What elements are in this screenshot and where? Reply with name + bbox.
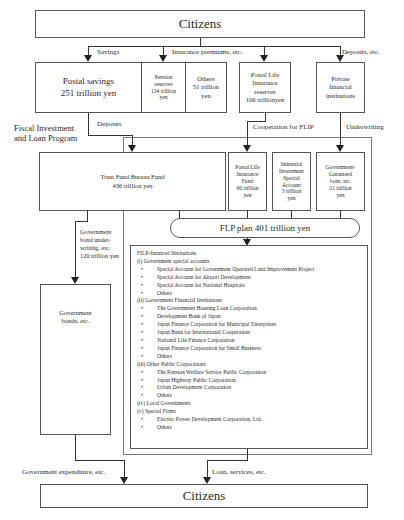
- citizens-top-label: Citizens: [179, 16, 222, 32]
- private-institutions-box: Private financial institutions: [316, 62, 365, 113]
- private-institutions-label: Private financial institutions: [326, 75, 355, 100]
- postal-savings-box: Postal savings 251 trillion yen: [35, 62, 142, 113]
- filp-group-heading: (iii) Other Public Corporations: [137, 361, 361, 369]
- arrow-down-icon: [71, 277, 79, 284]
- list-item: Special Account for Government Operated …: [137, 266, 361, 274]
- citizens-bottom-box: Citizens: [40, 484, 368, 508]
- list-item: Japan Finance Corporation for Municipal …: [137, 321, 361, 329]
- list-item: Special Account for National Hospitals: [137, 282, 361, 290]
- savings-label: Savings: [97, 48, 119, 56]
- arrow-down-icon: [260, 55, 268, 62]
- deposits-etc-label: Deposits, etc.: [342, 48, 380, 56]
- insurance-premiums-label: Insurance premiums, etc.: [172, 48, 242, 56]
- arrow-down-icon: [203, 477, 211, 484]
- connector: [88, 46, 340, 47]
- government-bonds-box: Government bonds, etc.: [40, 284, 111, 435]
- gov-expenditure-label: Government expenditure, etc.: [22, 468, 105, 476]
- connector: [247, 449, 248, 460]
- connector: [207, 460, 248, 461]
- filp-group-heading: (iv) Local Governments: [137, 400, 361, 408]
- list-item: National Life Finance Corporation: [137, 337, 361, 345]
- list-item: Others: [137, 353, 361, 361]
- arrow-down-icon: [84, 55, 92, 62]
- arrow-down-icon: [128, 145, 136, 152]
- underwriting-label: Underwriting: [346, 123, 384, 131]
- connector: [88, 46, 89, 55]
- filp-group-heading: (ii) Government Financial Institutions: [137, 297, 361, 305]
- pension-reserves-box: Pension reserves 134 trillion yen: [141, 62, 186, 113]
- arrow-down-icon: [159, 55, 167, 62]
- connector: [75, 221, 76, 277]
- postal-life-reserves-box: Postal Life Insurance reserves 106 trill…: [239, 62, 291, 113]
- flp-plan-pill: FLP plan 401 trillion yen: [170, 218, 360, 238]
- filp-institutions-list: FILP-financed Institutions (i) Governmen…: [130, 245, 368, 449]
- connector: [88, 135, 133, 136]
- postal-savings-label: Postal savings 251 trillion yen: [61, 76, 117, 99]
- list-item: Electric Power Development Corporation, …: [137, 416, 361, 424]
- connector: [88, 113, 89, 135]
- postal-life-reserves-label: Postal Life Insurance reserves 106 trill…: [246, 71, 284, 105]
- gov-bond-underwriting-label: Government bond under- writing, etc. 120…: [80, 228, 119, 260]
- others-box: Others 51 trillion yen: [185, 62, 227, 113]
- gov-guaranteed-label: Government- Guranteed bons, etc. 21 tril…: [326, 164, 356, 199]
- list-item: Japan Bank for International Cooperation: [137, 329, 361, 337]
- list-item: Development Bank of Japan: [137, 313, 361, 321]
- arrow-down-icon: [243, 145, 251, 152]
- citizens-top-box: Citizens: [35, 10, 365, 38]
- postal-life-fund-label: Postal Life Insurance Fund 60 trillion y…: [235, 164, 259, 199]
- connector: [124, 460, 125, 477]
- filp-list-title: FILP-financed Institutions: [137, 250, 361, 258]
- loan-services-label: Loan, services, etc.: [212, 468, 266, 476]
- connector: [75, 435, 76, 460]
- pension-reserves-label: Pension reserves 134 trillion yen: [151, 74, 176, 102]
- flp-plan-label: FLP plan 401 trillion yen: [220, 223, 311, 233]
- filp-group-heading: (i) Government special accounts: [137, 258, 361, 266]
- government-bonds-label: Government bonds, etc.: [59, 309, 92, 326]
- list-item: Urban Development Corporation: [137, 384, 361, 392]
- connector: [264, 46, 265, 55]
- postal-life-fund-box: Postal Life Insurance Fund 60 trillion y…: [228, 152, 267, 211]
- industrial-investment-label: Industrial Investment Special Account 3 …: [279, 161, 304, 203]
- filp-group-heading: (v) Special Firms: [137, 408, 361, 416]
- industrial-investment-box: Industrial Investment Special Account 3 …: [272, 152, 311, 211]
- list-item: Others: [137, 392, 361, 400]
- connector: [200, 38, 201, 46]
- list-item: The Pension Welfare Service Public Corpo…: [137, 369, 361, 377]
- connector: [132, 135, 133, 145]
- list-item: Others: [137, 424, 361, 432]
- list-item: Japan Finance Corporation for Small Busi…: [137, 345, 361, 353]
- deposits-label: Deposits: [97, 120, 122, 128]
- list-item: Others: [137, 290, 361, 298]
- others-label: Others 51 trillion yen: [193, 75, 219, 100]
- connector: [75, 221, 88, 222]
- trust-fund-label: Trust Fund Bureau Fund 436 trillion yen: [101, 173, 165, 190]
- list-item: Japan Highway Public Corporation: [137, 377, 361, 385]
- connector: [340, 113, 341, 145]
- connector: [247, 121, 248, 145]
- gov-guaranteed-box: Government- Guranteed bons, etc. 21 tril…: [316, 152, 365, 211]
- connector: [87, 211, 88, 221]
- connector: [340, 46, 341, 55]
- list-item: The Government Housing Loan Corporation: [137, 305, 361, 313]
- connector: [163, 46, 164, 55]
- program-title: Fiscal Investment and Loan Program: [14, 123, 77, 143]
- connector: [207, 460, 208, 477]
- connector: [75, 460, 125, 461]
- connector: [265, 113, 266, 121]
- connector: [247, 121, 266, 122]
- cooperation-label: Cooperation for FLIP: [253, 123, 314, 131]
- arrow-down-icon: [120, 477, 128, 484]
- trust-fund-box: Trust Fund Bureau Fund 436 trillion yen: [39, 152, 226, 211]
- citizens-bottom-label: Citizens: [183, 488, 226, 504]
- list-item: Special Account for Airport Development: [137, 274, 361, 282]
- arrow-down-icon: [336, 145, 344, 152]
